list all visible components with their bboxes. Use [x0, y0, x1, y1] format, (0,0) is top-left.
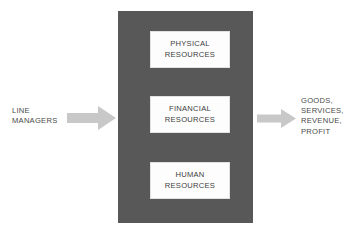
resource-box-human: HUMAN RESOURCES — [150, 162, 230, 199]
resource-label-human: HUMAN RESOURCES — [165, 170, 215, 190]
output-block-arrow-icon — [257, 109, 296, 128]
resource-box-physical: PHYSICAL RESOURCES — [150, 31, 230, 68]
resource-label-financial: FINANCIAL RESOURCES — [165, 104, 215, 124]
input-block-arrow-icon — [67, 106, 116, 130]
output-label: GOODS, SERVICES, REVENUE, PROFIT — [301, 96, 344, 137]
resource-label-physical: PHYSICAL RESOURCES — [165, 39, 215, 59]
resource-box-financial: FINANCIAL RESOURCES — [150, 96, 230, 133]
input-label: LINE MANAGERS — [12, 106, 57, 126]
resource-transformation-diagram: LINE MANAGERS PHYSICAL RESOURCES FINANCI… — [0, 0, 363, 231]
organization-block: PHYSICAL RESOURCES FINANCIAL RESOURCES H… — [118, 11, 253, 223]
